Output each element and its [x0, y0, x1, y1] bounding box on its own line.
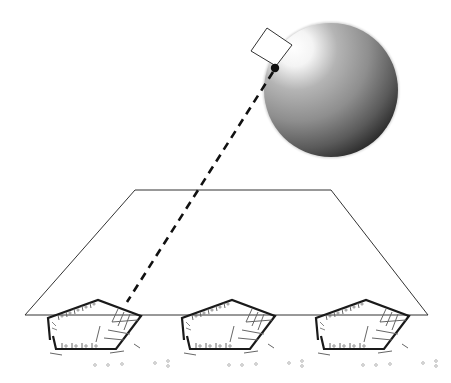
plan-outer-wall	[316, 300, 409, 349]
plan-fixture	[82, 306, 83, 311]
plan-fixture	[66, 312, 67, 317]
plan-fixture	[216, 306, 217, 311]
plan-site-dot	[255, 363, 258, 366]
floor-plan-1	[48, 300, 169, 367]
plan-site-mark	[134, 344, 140, 348]
plan-site-dot	[288, 362, 291, 365]
plan-site-dot	[107, 364, 110, 367]
plan-fixture-circle	[363, 345, 365, 347]
plan-partition	[242, 330, 264, 334]
plan-site-mark	[50, 353, 62, 355]
plan-fixture-circle	[329, 315, 331, 317]
plan-fixture-circle	[85, 306, 87, 308]
plan-fixture	[52, 328, 57, 330]
floor-plan-2	[182, 300, 303, 367]
diagram-svg	[0, 0, 451, 383]
plan-fixture-circle	[353, 345, 355, 347]
plan-fixture-circle	[209, 345, 211, 347]
plan-partition	[380, 320, 406, 322]
plan-partition	[392, 314, 398, 330]
ground-plane-trapezoid	[25, 190, 428, 315]
plan-fixture-circle	[353, 306, 355, 308]
plan-fixture	[192, 315, 193, 320]
plan-partition	[104, 338, 124, 340]
plan-fixture-circle	[95, 345, 97, 347]
plan-fixture-circle	[69, 312, 71, 314]
plan-fixture-circle	[343, 345, 345, 347]
plan-fixture-circle	[229, 345, 231, 347]
plan-partition	[112, 320, 138, 322]
plan-fixture-circle	[195, 315, 197, 317]
plan-site-dot	[167, 360, 170, 363]
plan-partition	[364, 326, 368, 342]
plan-fixture	[186, 328, 191, 330]
plan-fixture-circle	[211, 309, 213, 311]
plan-fixture-circle	[219, 345, 221, 347]
plan-partition	[376, 330, 398, 334]
plan-fixture-circle	[85, 345, 87, 347]
plan-site-mark	[184, 353, 196, 355]
plan-site-mark	[378, 351, 392, 353]
plan-site-dot	[167, 365, 170, 368]
plan-fixture	[52, 322, 56, 326]
plan-outer-wall	[182, 300, 275, 349]
plan-partition	[238, 338, 258, 340]
plan-site-dot	[435, 360, 438, 363]
plan-partition	[108, 330, 130, 334]
plan-fixture	[58, 315, 59, 320]
plan-fixture-circle	[93, 303, 95, 305]
plan-site-mark	[268, 344, 274, 348]
plan-fixture-circle	[75, 345, 77, 347]
plan-fixture	[358, 303, 359, 308]
plan-partition	[372, 338, 392, 340]
plan-fixture	[320, 322, 324, 326]
plan-partition	[246, 320, 272, 322]
plan-fixture	[74, 309, 75, 314]
plan-site-mark	[244, 351, 258, 353]
viewpoint-dot	[271, 64, 279, 72]
plan-fixture	[208, 309, 209, 314]
plan-outer-wall	[48, 300, 141, 349]
plan-fixture-circle	[337, 312, 339, 314]
plan-fixture	[320, 328, 325, 330]
plan-site-dot	[389, 363, 392, 366]
plan-site-dot	[422, 362, 425, 365]
plan-fixture	[200, 312, 201, 317]
plan-partition	[252, 312, 258, 326]
plan-fixture-circle	[227, 303, 229, 305]
plan-fixture-circle	[199, 345, 201, 347]
floor-plans-group	[48, 300, 437, 367]
plan-fixture-circle	[61, 315, 63, 317]
plan-site-dot	[375, 364, 378, 367]
diagram-canvas	[0, 0, 451, 383]
plan-site-dot	[435, 365, 438, 368]
plan-partition	[96, 326, 100, 342]
plan-fixture	[186, 322, 190, 326]
plan-fixture	[90, 303, 91, 308]
plan-site-mark	[318, 353, 330, 355]
floor-plan-3	[316, 300, 437, 367]
plan-site-dot	[301, 360, 304, 363]
plan-fixture	[334, 312, 335, 317]
plan-site-dot	[94, 364, 97, 367]
plan-fixture-circle	[203, 312, 205, 314]
plan-site-dot	[241, 364, 244, 367]
plan-site-dot	[228, 364, 231, 367]
plan-fixture-circle	[361, 303, 363, 305]
sightline-dashed	[127, 72, 273, 302]
plan-site-dot	[121, 363, 124, 366]
plan-site-dot	[362, 364, 365, 367]
plan-site-mark	[110, 351, 124, 353]
plan-fixture	[342, 309, 343, 314]
plan-fixture-circle	[219, 306, 221, 308]
plan-fixture	[350, 306, 351, 311]
plan-fixture-circle	[345, 309, 347, 311]
plan-partition	[230, 326, 234, 342]
plan-fixture	[326, 315, 327, 320]
plan-site-dot	[301, 365, 304, 368]
plan-partition	[386, 312, 392, 326]
plan-fixture-circle	[77, 309, 79, 311]
plan-fixture-circle	[333, 345, 335, 347]
plan-partition	[124, 314, 130, 330]
plan-site-dot	[154, 362, 157, 365]
